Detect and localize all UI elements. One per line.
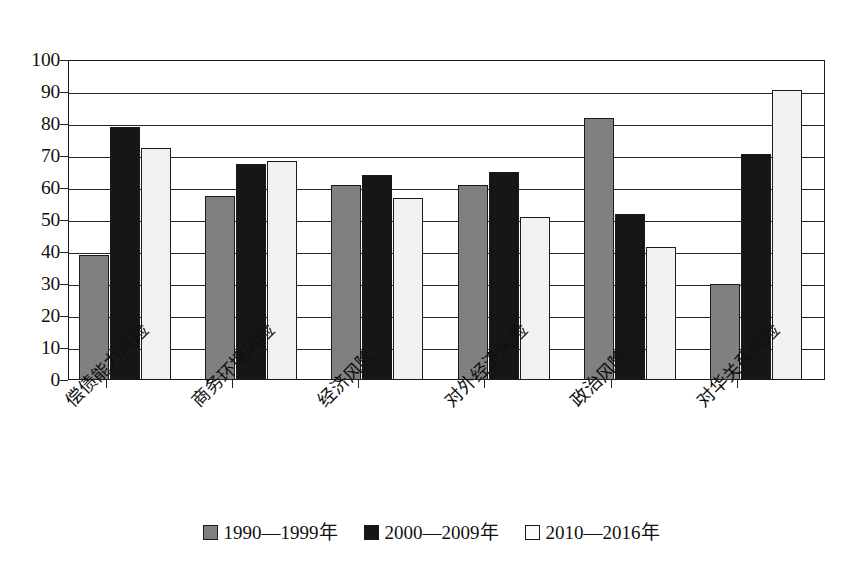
y-axis-tick-mark: [60, 380, 68, 381]
bar-5-series-3: [646, 247, 676, 380]
y-axis: 0102030405060708090100: [0, 0, 60, 588]
legend-item-2[interactable]: 2000—2009年: [364, 523, 499, 542]
x-axis-tick-mark: [106, 380, 107, 388]
chart-legend: 1990—1999年2000—2009年2010—2016年: [0, 523, 862, 542]
y-axis-tick-label: 70: [8, 146, 60, 166]
legend-label: 2000—2009年: [385, 523, 499, 542]
bar-4-series-1: [458, 185, 488, 380]
legend-label: 2010—2016年: [546, 523, 660, 542]
y-axis-tick-label: 100: [8, 50, 60, 70]
bar-4-series-3: [520, 217, 550, 380]
y-axis-tick-label: 20: [8, 306, 60, 326]
y-axis-tick-label: 40: [8, 242, 60, 262]
y-axis-tick-mark: [60, 220, 68, 221]
y-axis-tick-mark: [60, 188, 68, 189]
white-swatch: [525, 525, 540, 540]
bar-3-series-3: [393, 198, 423, 380]
legend-label: 1990—1999年: [224, 523, 338, 542]
gray-swatch: [203, 525, 218, 540]
bar-2-series-3: [267, 161, 297, 380]
black-swatch: [364, 525, 379, 540]
y-axis-tick-mark: [60, 284, 68, 285]
y-axis-tick-label: 90: [8, 82, 60, 102]
x-axis-tick-mark: [232, 380, 233, 388]
y-axis-tick-label: 60: [8, 178, 60, 198]
y-axis-tick-mark: [60, 60, 68, 61]
y-axis-tick-label: 10: [8, 338, 60, 358]
y-axis-tick-mark: [60, 252, 68, 253]
grouped-bar-chart: 0102030405060708090100 偿债能力风险商务环境风险经济风险对…: [0, 0, 862, 588]
y-axis-tick-label: 30: [8, 274, 60, 294]
y-axis-tick-mark: [60, 156, 68, 157]
y-axis-tick-mark: [60, 348, 68, 349]
y-axis-tick-mark: [60, 92, 68, 93]
legend-item-3[interactable]: 2010—2016年: [525, 523, 660, 542]
y-axis-tick-label: 0: [8, 370, 60, 390]
y-axis-tick-mark: [60, 316, 68, 317]
legend-item-1[interactable]: 1990—1999年: [203, 523, 338, 542]
y-axis-tick-label: 50: [8, 210, 60, 230]
y-axis-tick-mark: [60, 124, 68, 125]
bar-5-series-1: [584, 118, 614, 380]
bar-1-series-3: [141, 148, 171, 380]
bars-layer: [68, 60, 825, 380]
x-axis-tick-mark: [358, 380, 359, 388]
y-axis-tick-label: 80: [8, 114, 60, 134]
